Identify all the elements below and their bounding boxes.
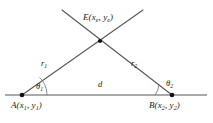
point-label-b: B(x2, y2) bbox=[149, 101, 180, 111]
angle-label-theta-2: θ2 bbox=[166, 79, 173, 89]
ray-line-r2 bbox=[62, 10, 172, 95]
angle-arc-theta-2 bbox=[155, 84, 159, 95]
vertex-dot-e bbox=[98, 39, 102, 43]
segment-label-r2-sub: 2 bbox=[134, 63, 137, 69]
segment-label-r1-sub: 1 bbox=[44, 63, 47, 69]
angle-label-theta-2-sub: 2 bbox=[170, 83, 173, 89]
segment-label-d: d bbox=[98, 80, 102, 89]
segment-label-d-letter: d bbox=[98, 79, 102, 89]
point-label-a: A(x1, y1) bbox=[11, 101, 42, 111]
segment-label-r1: r1 bbox=[41, 59, 47, 69]
segment-label-r2: r2 bbox=[131, 59, 137, 69]
point-label-a-close: ) bbox=[39, 100, 42, 110]
angle-label-theta-1: θ1 bbox=[36, 82, 43, 92]
vertex-dot-b bbox=[170, 93, 175, 98]
angle-label-theta-1-sub: 1 bbox=[40, 86, 43, 92]
point-label-e: E(xe, ye) bbox=[83, 13, 113, 23]
point-label-b-close: ) bbox=[177, 100, 180, 110]
point-label-e-close: ) bbox=[110, 12, 113, 22]
vertex-dot-a bbox=[20, 93, 25, 98]
geometry-diagram: E(xe, ye) r1 r2 d θ1 θ2 A(x1, y1) B(x2, … bbox=[0, 0, 213, 123]
